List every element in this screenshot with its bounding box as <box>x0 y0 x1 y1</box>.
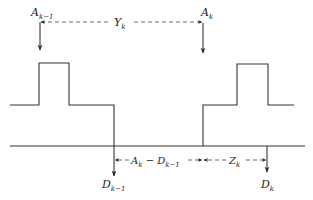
pulse-k <box>203 64 294 146</box>
label-arrival-curr: Ak <box>200 6 213 21</box>
label-interarrival: Yk <box>114 16 126 31</box>
pulse-k-minus-1 <box>10 63 114 146</box>
timing-diagram: Ak−1 Yk Ak Ak − Dk−1 Zk Dk−1 Dk <box>0 0 313 200</box>
label-arrival-prev: Ak−1 <box>30 6 54 21</box>
label-departure-curr: Dk <box>260 178 274 193</box>
label-wait-gap: Ak − Dk−1 <box>130 155 180 169</box>
label-departure-prev: Dk−1 <box>101 178 125 193</box>
label-service: Zk <box>228 155 240 169</box>
